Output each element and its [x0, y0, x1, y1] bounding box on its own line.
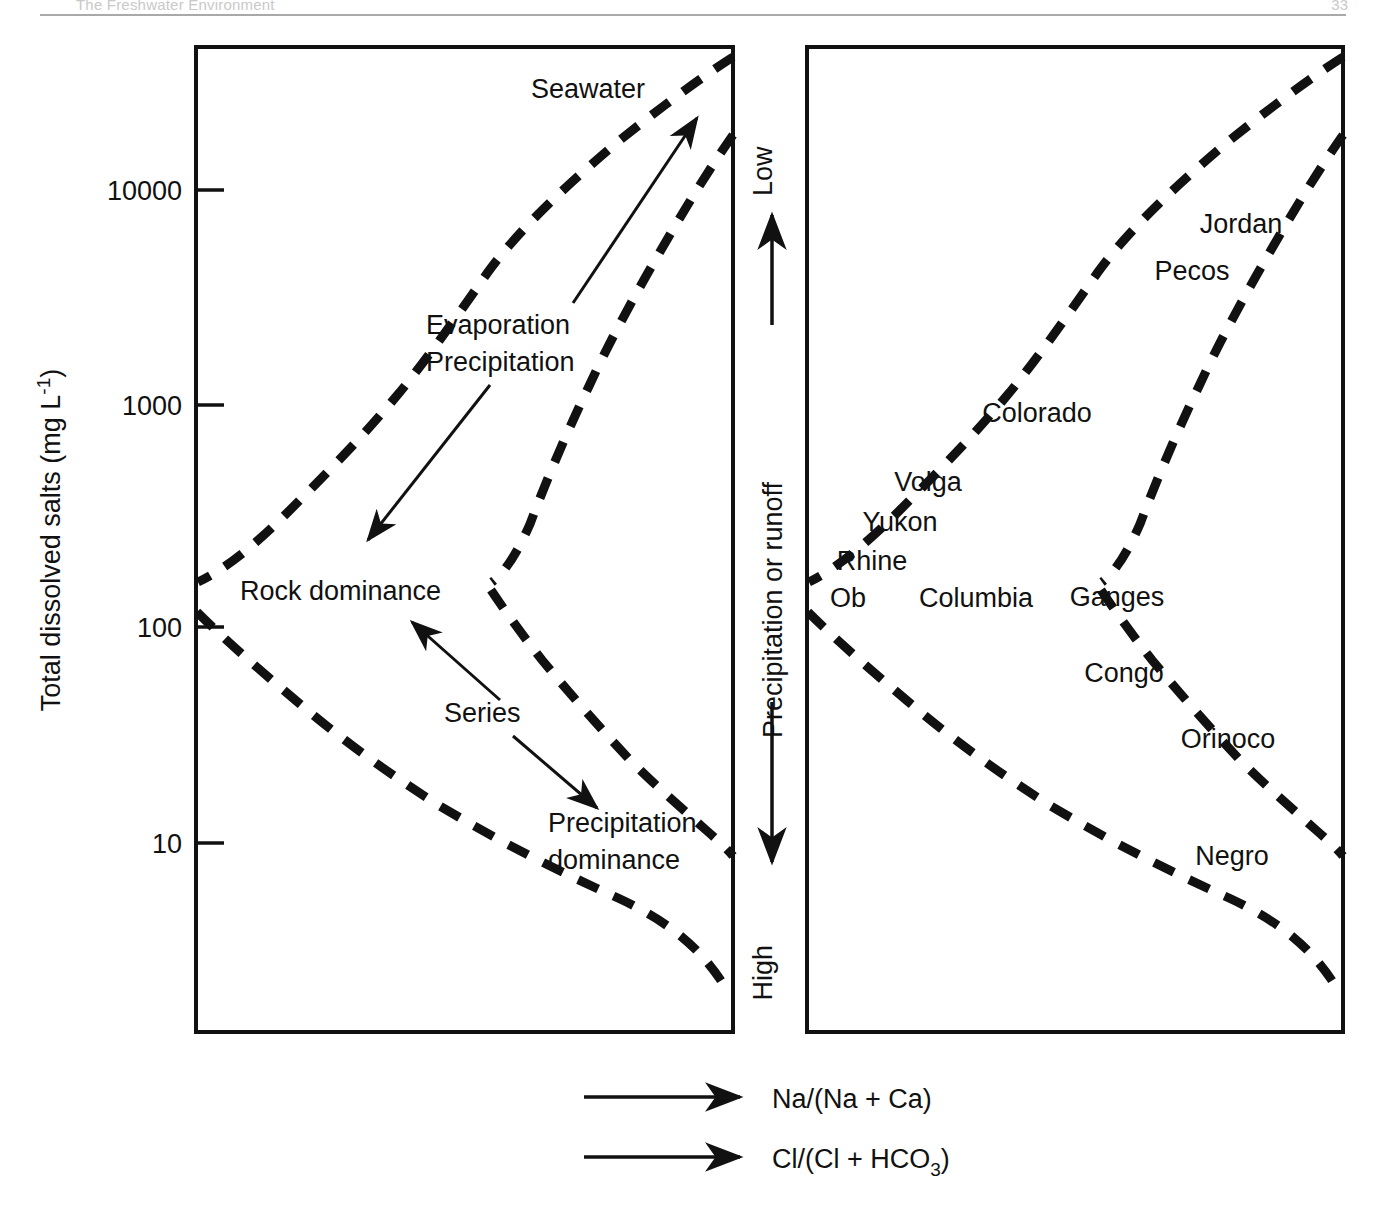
y-axis-title: Total dissolved salts (mg L-1): [33, 369, 66, 712]
y-tick-label-10000: 10000: [107, 176, 182, 206]
center-axis-top-label: Low: [748, 146, 778, 196]
annotation-precipitation-dominance-line1: Precipitation: [548, 808, 697, 838]
right-inner-boundary-curve: [1102, 135, 1343, 582]
y-axis-title-tail: ): [36, 369, 66, 378]
x-axis-label-cl-sub: 3: [930, 1159, 941, 1180]
river-label-volga: Volga: [894, 467, 963, 497]
right-panel-frame: [807, 47, 1343, 1032]
center-axis-bottom-label: High: [748, 945, 778, 1001]
river-label-columbia: Columbia: [919, 583, 1034, 613]
x-axis-label-cl-head: Cl/(Cl + HCO: [772, 1144, 930, 1174]
river-labels: Jordan Pecos Colorado Volga Yukon Rhine …: [830, 209, 1282, 871]
annotation-precipitation: Precipitation: [426, 347, 575, 377]
center-axis-mid-label: Precipitation or runoff: [758, 481, 788, 738]
annotation-series: Series: [444, 698, 521, 728]
river-label-jordan: Jordan: [1200, 209, 1283, 239]
annotation-seawater: Seawater: [531, 74, 645, 104]
x-axis-label-na: Na/(Na + Ca): [772, 1084, 932, 1114]
right-inner-boundary-curve-lower: [1101, 590, 1343, 856]
river-label-yukon: Yukon: [862, 507, 937, 537]
y-tick-label-1000: 1000: [122, 391, 182, 421]
left-panel-frame: [196, 47, 733, 1032]
y-axis-ticks: [196, 190, 224, 843]
annotation-rock-dominance: Rock dominance: [240, 576, 441, 606]
annotation-evaporation: Evaporation: [426, 310, 570, 340]
seawater-arrow: [573, 118, 697, 303]
right-outer-boundary-curve-lower: [808, 612, 1338, 990]
x-axis-label-cl-tail: ): [941, 1144, 950, 1174]
center-axis-high-label: High: [748, 945, 778, 1001]
river-label-ganges: Ganges: [1070, 582, 1165, 612]
river-label-negro: Negro: [1195, 841, 1269, 871]
series-arrow-down: [513, 736, 597, 808]
river-label-orinoco: Orinoco: [1181, 724, 1276, 754]
center-axis-precipitation-runoff-label: Precipitation or runoff: [758, 481, 788, 738]
y-axis-title-sup: -1: [33, 378, 54, 395]
right-outer-boundary-curve: [809, 57, 1343, 582]
svg-text:Total dissolved salts (mg L-1): Total dissolved salts (mg L-1): [33, 369, 66, 712]
x-axis-label-cl: Cl/(Cl + HCO3): [772, 1144, 950, 1180]
annotation-precipitation-dominance-line2: dominance: [548, 845, 680, 875]
y-axis-title-main: Total dissolved salts (mg L: [36, 395, 66, 712]
series-arrow-up: [412, 622, 500, 700]
center-axis-low-label: Low: [748, 146, 778, 196]
river-label-ob: Ob: [830, 583, 866, 613]
river-label-congo: Congo: [1084, 658, 1164, 688]
left-outer-boundary-curve-lower: [197, 612, 727, 990]
gibbs-diagram-figure: The Freshwater Environment 33 10000 1000…: [0, 0, 1384, 1212]
figure-canvas: 10000 1000 100 10 Total dissolved salts …: [0, 0, 1384, 1212]
y-tick-label-10: 10: [152, 829, 182, 859]
river-label-pecos: Pecos: [1154, 256, 1229, 286]
river-label-colorado: Colorado: [982, 398, 1092, 428]
evaporation-precipitation-arrow: [368, 385, 490, 540]
y-tick-label-100: 100: [137, 613, 182, 643]
river-label-rhine: Rhine: [837, 546, 908, 576]
